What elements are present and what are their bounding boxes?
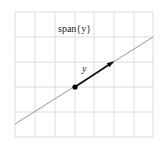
span-label: span{y} (58, 23, 91, 34)
span-diagram: span{y} y (0, 0, 165, 145)
vector-label: y (81, 63, 87, 74)
origin-point (72, 84, 77, 89)
